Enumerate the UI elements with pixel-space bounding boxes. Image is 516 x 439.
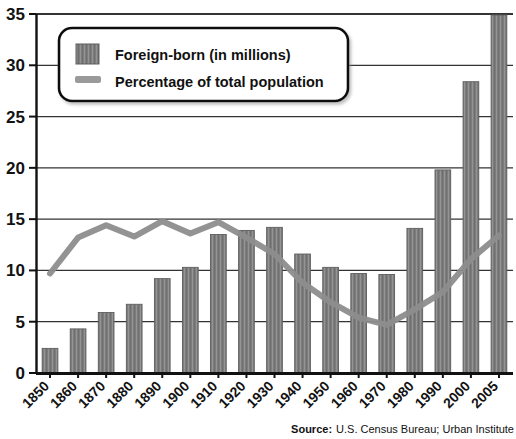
source-prefix: Source: xyxy=(291,423,332,435)
y-axis-tick-label: 0 xyxy=(16,364,25,383)
chart-legend: Foreign-born (in millions) Percentage of… xyxy=(59,28,348,101)
bar xyxy=(239,230,255,373)
y-axis-tick-label: 20 xyxy=(6,159,25,178)
bar xyxy=(463,82,479,373)
bar xyxy=(295,254,311,373)
bar xyxy=(211,235,227,373)
legend-label-percentage: Percentage of total population xyxy=(115,74,324,90)
legend-bar-swatch xyxy=(76,44,99,64)
bar xyxy=(323,267,339,373)
bar xyxy=(182,267,198,373)
y-axis-tick-label: 25 xyxy=(6,108,25,127)
y-axis-tick-label: 35 xyxy=(6,5,25,24)
bar xyxy=(407,228,423,373)
bar xyxy=(491,15,507,373)
y-axis-tick-label: 30 xyxy=(6,56,25,75)
legend-box xyxy=(59,28,348,101)
source-text: U.S. Census Bureau; Urban Institute xyxy=(336,423,514,435)
chart-canvas: 05101520253035 1850186018701880189019001… xyxy=(0,0,516,439)
y-axis-tick-label: 10 xyxy=(6,261,25,280)
y-axis-tick-label: 15 xyxy=(6,210,25,229)
legend-label-foreign-born: Foreign-born (in millions) xyxy=(115,47,291,63)
bar xyxy=(435,170,451,373)
bar xyxy=(70,329,86,373)
bar xyxy=(351,274,367,373)
foreign-born-population-chart: 05101520253035 1850186018701880189019001… xyxy=(0,0,516,439)
legend-line-swatch xyxy=(75,76,101,83)
y-axis-tick-label: 5 xyxy=(16,313,25,332)
bar xyxy=(126,304,142,373)
bar xyxy=(42,348,58,373)
bar xyxy=(98,312,114,373)
bar xyxy=(154,279,170,373)
source-note: Source: U.S. Census Bureau; Urban Instit… xyxy=(291,423,514,435)
